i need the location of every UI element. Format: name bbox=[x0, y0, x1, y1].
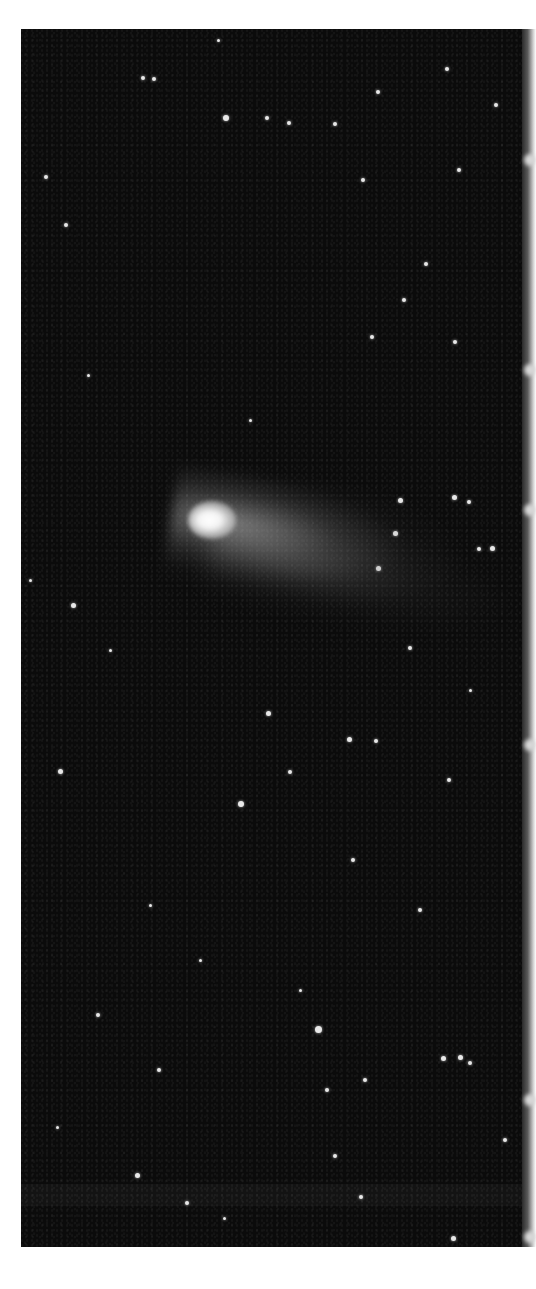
star bbox=[223, 115, 229, 121]
star bbox=[376, 90, 380, 94]
scan-band bbox=[21, 1184, 525, 1206]
star bbox=[418, 908, 422, 912]
star bbox=[458, 1055, 463, 1060]
star bbox=[96, 1013, 100, 1017]
star bbox=[87, 374, 90, 377]
star bbox=[351, 858, 355, 862]
comet-photograph bbox=[21, 29, 525, 1247]
star bbox=[361, 178, 365, 182]
star bbox=[347, 737, 352, 742]
star bbox=[363, 1078, 367, 1082]
star bbox=[265, 116, 269, 120]
star bbox=[447, 778, 451, 782]
star bbox=[109, 649, 112, 652]
star bbox=[58, 769, 63, 774]
edge-highlight bbox=[524, 1094, 536, 1106]
star bbox=[64, 223, 68, 227]
comet-head bbox=[188, 501, 236, 539]
edge-highlight bbox=[524, 504, 536, 516]
edge-highlight bbox=[524, 364, 536, 376]
star bbox=[149, 904, 152, 907]
star bbox=[451, 1236, 456, 1241]
star bbox=[299, 989, 302, 992]
star bbox=[157, 1068, 161, 1072]
star bbox=[152, 77, 156, 81]
star bbox=[402, 298, 406, 302]
star bbox=[238, 801, 244, 807]
edge-highlight bbox=[524, 154, 536, 166]
star bbox=[457, 168, 461, 172]
star bbox=[494, 103, 498, 107]
star bbox=[441, 1056, 446, 1061]
edge-highlight bbox=[524, 739, 536, 751]
star bbox=[469, 689, 472, 692]
edge-highlight bbox=[524, 1231, 536, 1243]
star bbox=[223, 1217, 226, 1220]
star bbox=[29, 579, 32, 582]
star bbox=[333, 1154, 337, 1158]
page-edge-shadow bbox=[522, 29, 536, 1247]
star bbox=[249, 419, 252, 422]
star bbox=[374, 739, 378, 743]
star bbox=[141, 76, 145, 80]
star bbox=[359, 1195, 363, 1199]
star bbox=[71, 603, 76, 608]
star bbox=[445, 67, 449, 71]
star bbox=[266, 711, 271, 716]
star bbox=[135, 1173, 140, 1178]
star bbox=[467, 500, 471, 504]
star bbox=[315, 1026, 322, 1033]
star bbox=[185, 1201, 189, 1205]
star bbox=[424, 262, 428, 266]
star bbox=[453, 340, 457, 344]
star bbox=[325, 1088, 329, 1092]
star bbox=[56, 1126, 59, 1129]
star bbox=[288, 770, 292, 774]
star bbox=[287, 121, 291, 125]
star bbox=[370, 335, 374, 339]
star bbox=[199, 959, 202, 962]
star bbox=[468, 1061, 472, 1065]
star bbox=[44, 175, 48, 179]
star bbox=[503, 1138, 507, 1142]
star bbox=[333, 122, 337, 126]
star bbox=[217, 39, 220, 42]
star bbox=[452, 495, 457, 500]
